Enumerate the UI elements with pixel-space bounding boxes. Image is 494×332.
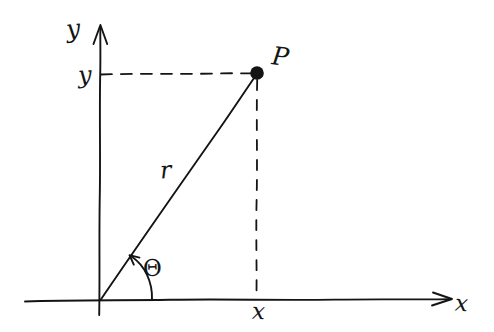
- x-axis: [25, 293, 452, 306]
- y-projection-dashed-line: [101, 73, 255, 74]
- radius-label: r: [159, 158, 172, 183]
- point-p-label: P: [271, 43, 291, 70]
- y-axis-label: y: [65, 15, 82, 41]
- point-p-marker: [250, 66, 264, 80]
- theta-angle-label: Θ: [143, 257, 163, 281]
- y-axis: [94, 25, 108, 315]
- x-value-label: x: [252, 300, 266, 323]
- x-axis-label: x: [454, 292, 469, 316]
- x-projection-dashed-line: [256, 80, 257, 298]
- radius-segment: [101, 75, 257, 301]
- y-value-label: y: [77, 63, 92, 88]
- diagram-canvas: y x y x P r Θ: [0, 0, 494, 332]
- polar-coordinates-sketch: [0, 0, 494, 332]
